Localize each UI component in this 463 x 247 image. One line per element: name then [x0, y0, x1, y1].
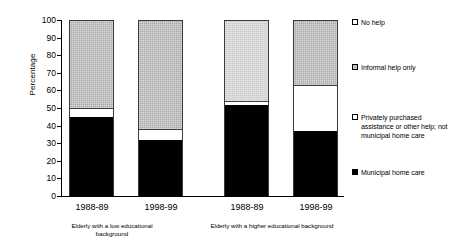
segment-informal-help-only [293, 20, 338, 85]
y-tick-80: 80 [30, 51, 56, 59]
x-axis-line [61, 196, 344, 197]
legend-label-municipal-home-care: Municipal home care [361, 168, 425, 177]
stacked-bar-group2-1988-89[interactable] [224, 20, 269, 196]
legend-swatch-no-help-icon [352, 19, 358, 25]
legend-swatch-municipal-home-care-icon [352, 169, 358, 175]
segment-informal-help-only [138, 20, 183, 129]
stacked-bar-group2-1998-99[interactable] [293, 20, 338, 196]
x-tick-group1-1998-99: 1998-99 [126, 202, 196, 212]
legend-item-privately-purchased[interactable]: Privately purchased assistance or other … [352, 113, 448, 140]
segment-privately-purchased [69, 108, 114, 117]
legend-item-informal-help-only[interactable]: Informal help only [352, 63, 415, 72]
plot-area [61, 20, 344, 196]
y-tick-10: 10 [30, 174, 56, 182]
legend-item-municipal-home-care[interactable]: Municipal home care [352, 168, 425, 177]
segment-privately-purchased [224, 101, 269, 105]
y-tick-70: 70 [30, 69, 56, 77]
legend-swatch-informal-help-icon [352, 64, 358, 70]
legend-label-private-line3: municipal home care [361, 131, 448, 140]
segment-municipal-home-care [69, 117, 114, 196]
segment-municipal-home-care [138, 140, 183, 196]
group-label-low-education: Elderly with a low educational backgroun… [52, 222, 172, 238]
segment-privately-purchased [293, 85, 338, 131]
y-tick-0: 0 [30, 192, 56, 200]
group-label-higher-education: Elderly with a higher educational backgr… [192, 222, 352, 230]
legend-label-private-line2: assistance or other help; not [361, 122, 448, 131]
legend-swatch-privately-purchased-icon [352, 114, 358, 120]
segment-municipal-home-care [293, 131, 338, 196]
y-tick-30: 30 [30, 139, 56, 147]
y-tick-100: 100 [30, 16, 56, 24]
y-tick-50: 50 [30, 104, 56, 112]
y-tick-40: 40 [30, 122, 56, 130]
stacked-bar-group1-1988-89[interactable] [69, 20, 114, 196]
group-label-high-line1: Elderly with a higher educational backgr… [192, 222, 352, 230]
y-axis: 100 90 80 70 60 50 40 30 20 10 0 [30, 0, 56, 247]
stacked-bar-group1-1998-99[interactable] [138, 20, 183, 196]
legend-label-informal-help-only: Informal help only [361, 63, 415, 72]
x-tick-group2-1998-99: 1998-99 [281, 202, 351, 212]
chart-container: Percentage 100 90 80 70 60 50 40 30 20 1… [0, 0, 463, 247]
legend-item-no-help[interactable]: No help [352, 18, 385, 27]
x-tick-group2-1988-89: 1988-89 [212, 202, 282, 212]
segment-privately-purchased [138, 129, 183, 140]
segment-municipal-home-care [224, 105, 269, 197]
legend-label-private-line1: Privately purchased [361, 113, 448, 122]
segment-informal-help-only [69, 20, 114, 108]
x-tick-group1-1988-89: 1988-89 [57, 202, 127, 212]
group-label-low-line2: background [52, 230, 172, 238]
y-tick-90: 90 [30, 34, 56, 42]
y-tick-20: 20 [30, 157, 56, 165]
segment-informal-help-only [224, 20, 269, 101]
group-label-low-line1: Elderly with a low educational [52, 222, 172, 230]
legend-label-no-help: No help [361, 18, 385, 27]
y-tick-60: 60 [30, 86, 56, 94]
